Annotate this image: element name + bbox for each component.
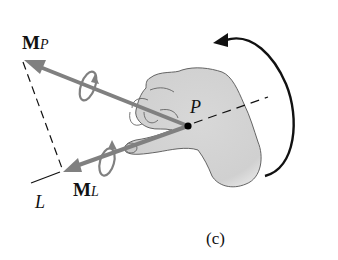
moment-l-symbol: M bbox=[73, 179, 91, 200]
moment-l-subscript: L bbox=[91, 184, 99, 199]
figure-caption: (c) bbox=[206, 230, 225, 247]
moment-p-symbol: M bbox=[22, 32, 40, 53]
moment-l-label: ML bbox=[73, 180, 99, 199]
moment-p-subscript: P bbox=[40, 37, 49, 52]
dashed-projection-line bbox=[23, 62, 63, 171]
axis-l-label: L bbox=[35, 193, 45, 211]
axis-l-line bbox=[31, 172, 60, 183]
moment-projection-diagram bbox=[0, 0, 338, 260]
moment-p-label: MP bbox=[22, 33, 49, 52]
point-p-dot bbox=[184, 122, 191, 129]
hand-illustration bbox=[125, 68, 261, 187]
point-p-label: P bbox=[190, 98, 201, 116]
